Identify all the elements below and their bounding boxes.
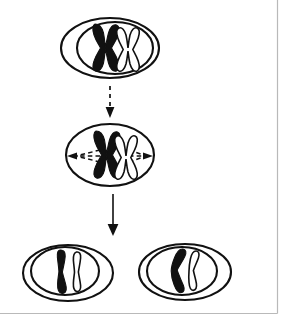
stage-daughter-cell-left <box>23 245 113 301</box>
stage-metaphase-cell <box>66 124 154 186</box>
cell-division-figure <box>0 0 291 323</box>
arrow-parent-to-metaphase <box>106 86 115 118</box>
stage-daughter-cell-right <box>139 244 231 300</box>
arrow-head <box>106 107 115 118</box>
stage-parent-cell <box>61 18 159 78</box>
diagram-canvas <box>0 0 291 323</box>
arrow-head <box>108 224 119 236</box>
arrow-metaphase-to-daughters <box>108 194 119 236</box>
